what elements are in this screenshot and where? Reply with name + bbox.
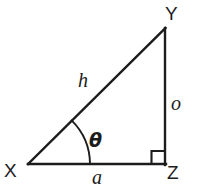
vertex-label-y: Y xyxy=(165,4,178,23)
vertex-label-z: Z xyxy=(167,163,179,182)
right-angle-marker-icon xyxy=(152,151,165,163)
vertex-label-x: X xyxy=(4,161,17,180)
right-triangle-diagram: X Y Z h o a θ xyxy=(0,0,199,196)
angle-label-theta: θ xyxy=(89,131,102,150)
side-label-opposite: o xyxy=(171,93,181,113)
angle-arc xyxy=(72,120,90,164)
side-label-hypotenuse: h xyxy=(78,70,88,90)
side-label-adjacent: a xyxy=(92,167,102,187)
